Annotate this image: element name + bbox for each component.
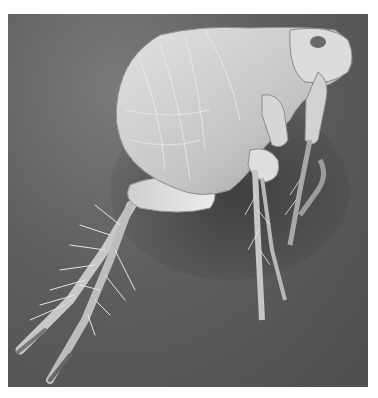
flea-illustration [8, 14, 368, 387]
micrograph-frame: flea [8, 14, 368, 387]
hind-legs [18, 200, 135, 380]
eye-region [310, 36, 326, 48]
